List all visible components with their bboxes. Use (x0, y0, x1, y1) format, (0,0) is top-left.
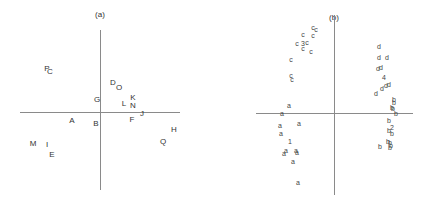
point-label: a (279, 130, 283, 138)
point-label: b (388, 144, 392, 152)
point-label: A (69, 117, 74, 125)
point-label: a (280, 110, 284, 118)
point-label: c (290, 76, 294, 84)
point-label: a (291, 158, 295, 166)
point-label: O (116, 84, 122, 92)
panel-b-y-axis (334, 15, 335, 195)
point-label: d (374, 90, 378, 98)
panel-b: (b) ccccc3ccccccddddd4ddddaaaaa1aaaaaabb… (215, 0, 429, 204)
point-label: Q (160, 138, 166, 146)
point-label: a (296, 179, 300, 187)
point-label: E (49, 151, 54, 159)
panel-a-title: (a) (95, 10, 105, 19)
point-label: 4 (382, 74, 386, 82)
point-label: M (30, 140, 37, 148)
point-label: L (122, 100, 126, 108)
point-label: G (94, 96, 100, 104)
point-label: d (379, 64, 383, 72)
point-label: N (130, 102, 136, 110)
point-label: c (301, 45, 305, 53)
point-label: 1 (288, 138, 292, 146)
point-label: d (377, 54, 381, 62)
point-label: B (93, 120, 98, 128)
panel-a-y-axis (100, 30, 101, 190)
point-label: a (278, 122, 282, 130)
point-label: c (309, 48, 313, 56)
point-label: c (295, 40, 299, 48)
point-label: C (47, 68, 53, 76)
point-label: c (289, 56, 293, 64)
point-label: I (46, 141, 48, 149)
point-label: a (287, 102, 291, 110)
point-label: d (385, 54, 389, 62)
point-label: c (311, 32, 315, 40)
point-label: J (140, 110, 144, 118)
point-label: c (305, 39, 309, 47)
point-label: a (295, 149, 299, 157)
point-label: F (130, 116, 135, 124)
point-label: b (394, 110, 398, 118)
point-label: d (377, 43, 381, 51)
point-label: b (390, 130, 394, 138)
panel-a: (a) PCDOGLKNJABFHQMIE (0, 0, 215, 204)
point-label: H (171, 126, 177, 134)
point-label: c (301, 31, 305, 39)
point-label: d (380, 85, 384, 93)
point-label: a (297, 120, 301, 128)
point-label: d (387, 81, 391, 89)
point-label: a (282, 150, 286, 158)
point-label: b (378, 143, 382, 151)
